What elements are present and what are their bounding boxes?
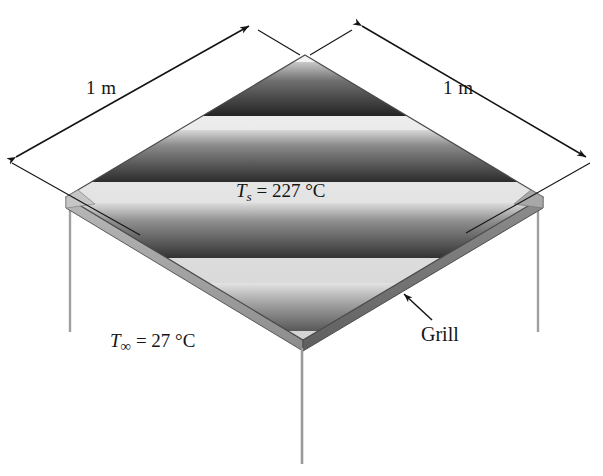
- callout-leader-grill: [404, 294, 432, 320]
- dimension-extension-left-inner: [258, 30, 300, 55]
- stripe-band-2: [60, 130, 550, 182]
- dimension-label-left: 1 m: [86, 77, 117, 99]
- dimension-label-right: 1 m: [443, 77, 474, 99]
- dimension-extension-right-inner: [310, 30, 352, 55]
- surface-temperature-label: Ts = 227 °C: [236, 180, 326, 205]
- ambient-temperature-value: 27 °C: [151, 330, 195, 351]
- stripe-band-3: [60, 203, 550, 258]
- stripe-band-4: [60, 283, 550, 331]
- subscript-infinity: ∞: [121, 338, 132, 354]
- symbol-T-surface: T: [236, 180, 247, 201]
- callout-label-grill: Grill: [421, 323, 459, 346]
- grill-diagram: [0, 0, 603, 476]
- ambient-temperature-label: T∞ = 27 °C: [110, 330, 195, 355]
- surface-temperature-value: 227 °C: [272, 180, 326, 201]
- equals-ambient: =: [131, 330, 151, 351]
- equals-surface: =: [252, 180, 272, 201]
- figure-canvas: 1 m 1 m Ts = 227 °C T∞ = 27 °C Grill: [0, 0, 603, 476]
- symbol-T-ambient: T: [110, 330, 121, 351]
- stripe-band-1: [60, 62, 550, 116]
